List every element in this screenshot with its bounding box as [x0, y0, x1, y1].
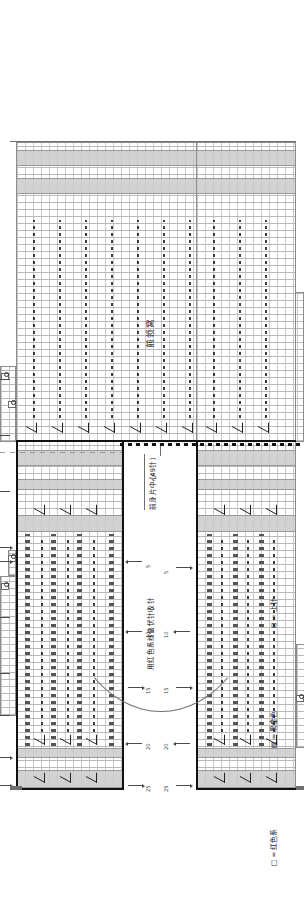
tick-arrow — [0, 547, 10, 548]
symbol-row — [270, 538, 278, 734]
tick-arrow — [0, 617, 10, 618]
symbol-row — [134, 220, 142, 420]
tick-arrow — [176, 785, 190, 786]
upper-step-grid-1 — [0, 576, 16, 716]
symbol-row — [236, 220, 244, 420]
piece-outline-right-bottom — [196, 440, 296, 442]
tick-label: 20 — [164, 743, 169, 750]
tick-arrow — [0, 491, 10, 492]
symbol-row — [56, 220, 64, 420]
purl-row — [48, 534, 56, 748]
legend-item-red: □ = 红色系 — [268, 829, 278, 866]
tick-arrow — [128, 743, 142, 744]
symbol-row — [262, 220, 270, 420]
symbol-row — [210, 220, 218, 420]
legend-item-purl: ⊟ = 上针 — [268, 598, 278, 628]
tick-label: 20 — [146, 743, 151, 750]
tick-arrow — [176, 743, 190, 744]
piece-outline-left-2 — [196, 788, 296, 790]
band-right-a-2 — [197, 178, 295, 194]
guide-line-bottom — [296, 786, 304, 790]
symbol-row — [82, 220, 90, 420]
band-right-b-2 — [197, 150, 295, 166]
yarnover-icon — [8, 401, 16, 408]
guide-line-top — [10, 786, 22, 790]
band-left-inner-2 — [197, 748, 295, 758]
symbol-row — [186, 220, 194, 420]
yarnover-icon — [1, 583, 9, 590]
symbol-row — [38, 538, 46, 734]
tick-arrow — [128, 785, 142, 786]
legend-item-black-gold: ▨ = 黑金色 — [268, 711, 278, 748]
tick-arrow — [0, 673, 10, 674]
chart-stage: 69 65 60 55 50 45 44 40 35 30 25 20 15 1… — [0, 0, 304, 908]
purl-row — [22, 534, 30, 748]
piece-outline-left — [16, 788, 124, 790]
symbol-row — [160, 220, 168, 420]
tick-arrow — [0, 435, 10, 436]
symbol-row — [108, 220, 116, 420]
bind-off-leader-curve — [60, 442, 262, 712]
tick-arrow — [0, 379, 10, 380]
tick-label: 25 — [146, 785, 151, 792]
tick-arrow — [0, 785, 10, 786]
tick-arrow — [0, 715, 10, 716]
symbol-row — [30, 220, 38, 420]
band-left-inner — [17, 748, 123, 758]
tick-arrow — [0, 757, 10, 758]
tick-label: 25 — [164, 785, 169, 792]
lower-right-block — [196, 142, 296, 442]
front-neckline-label: 前领窝 — [146, 318, 155, 348]
guide-line-right — [10, 141, 296, 142]
centre-dashed-line — [0, 452, 122, 453]
tick-arrow — [0, 561, 10, 562]
yarnover-icon — [296, 695, 304, 702]
